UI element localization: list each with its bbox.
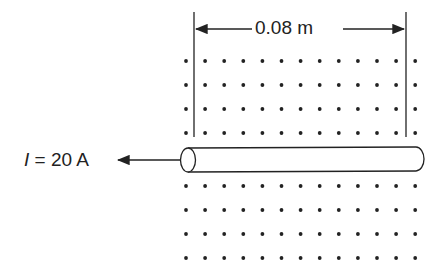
wire-end-cap	[181, 148, 196, 172]
diagram-canvas	[0, 0, 448, 280]
current-value: = 20 A	[35, 149, 89, 170]
current-label: I = 20 A	[24, 149, 89, 171]
current-symbol: I	[24, 149, 29, 170]
wire-rod	[188, 147, 424, 172]
width-label: 0.08 m	[255, 17, 313, 39]
